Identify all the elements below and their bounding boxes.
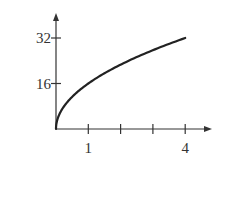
y-axis-arrow-icon <box>53 13 59 21</box>
y-axis <box>53 13 59 129</box>
x-axis-arrow-icon <box>204 126 212 132</box>
x-tick-label: 4 <box>181 140 189 156</box>
axis-ticks <box>51 38 185 134</box>
x-tick-label: 1 <box>85 140 93 156</box>
x-axis <box>56 126 212 132</box>
y-tick-label: 32 <box>36 30 51 46</box>
tick-labels: 141632 <box>36 30 189 156</box>
chart: 141632 <box>0 0 228 221</box>
data-curve <box>56 38 185 129</box>
y-tick-label: 16 <box>36 76 52 92</box>
